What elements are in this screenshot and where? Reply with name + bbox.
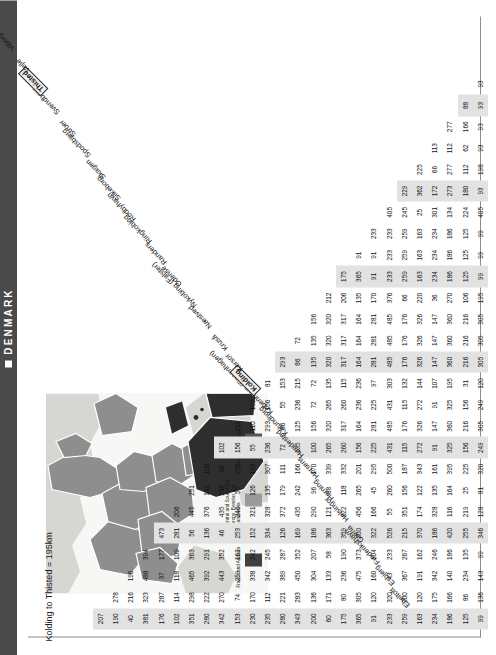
matrix-cell: 128 [473, 501, 488, 522]
matrix-row: 6017113358363121883392653202651353203203… [321, 73, 336, 629]
matrix-cell: 360 [442, 308, 457, 329]
matrix-cell: 186 [442, 608, 457, 629]
matrix-cell: 186 [442, 244, 457, 265]
matrix-cell: 66 [427, 158, 442, 179]
matrix-cell: 135 [351, 287, 366, 308]
matrix-cell: 152 [245, 522, 260, 543]
matrix-cell: 343 [290, 608, 305, 629]
matrix-cell: 109 [169, 543, 184, 564]
matrix-cell: 161 [427, 458, 442, 479]
matrix-cell: 106 [458, 287, 473, 308]
matrix-cell: 196 [123, 565, 138, 586]
matrix-cell: 177 [154, 543, 169, 564]
matrix-cell: 277 [442, 158, 457, 179]
matrix-cell: 395 [442, 458, 457, 479]
matrix-cell: 55 [382, 501, 397, 522]
matrix-cell: 245 [397, 201, 412, 222]
matrix-cell: 283 [290, 586, 305, 607]
matrix-cell: 171 [321, 586, 336, 607]
matrix-cell: 360 [442, 330, 457, 351]
matrix-cell: 221 [275, 586, 290, 607]
matrix-cell: 267 [397, 543, 412, 564]
matrix-row: 1758023619035922211833226031726011531731… [336, 73, 351, 629]
matrix-cell: 352 [290, 543, 305, 564]
matrix-cell: 365 [351, 608, 366, 629]
matrix-cell: 93 [473, 116, 488, 137]
matrix-cell: 236 [260, 436, 275, 457]
matrix-cell: 187 [397, 458, 412, 479]
matrix-cell: 326 [412, 308, 427, 329]
matrix-cell: 135 [321, 372, 336, 393]
matrix-row: 9913614399346128813202493052491203053053… [473, 73, 488, 629]
matrix-cell: 66 [214, 458, 229, 479]
matrix-row: 17628737177473 [154, 73, 169, 629]
matrix-cell: 215 [397, 522, 412, 543]
matrix-cell: 365 [351, 265, 366, 286]
matrix-cell: 206 [336, 287, 351, 308]
matrix-cell: 281 [366, 351, 381, 372]
matrix-cell: 270 [214, 586, 229, 607]
matrix-cell: 108 [199, 458, 214, 479]
matrix-cell: 195 [473, 287, 488, 308]
matrix-row: 1631201911623701741223432723262721443263… [412, 73, 427, 629]
matrix-cell: 136 [473, 586, 488, 607]
matrix-cell: 235 [260, 608, 275, 629]
matrix-cell: 346 [473, 522, 488, 543]
matrix-cell: 164 [351, 415, 366, 436]
matrix-cell: 367 [397, 565, 412, 586]
matrix-cell: 233 [382, 223, 397, 244]
matrix-cell: 381 [138, 608, 153, 629]
matrix-cell: 332 [336, 458, 351, 479]
matrix-cell: 265 [351, 479, 366, 500]
matrix-cell: 135 [458, 543, 473, 564]
matrix-cell: 112 [442, 137, 457, 158]
matrix-cell: 125 [458, 244, 473, 265]
matrix-cell: 233 [366, 223, 381, 244]
matrix-cell: 233 [382, 244, 397, 265]
matrix-cell: 394 [138, 543, 153, 564]
matrix-cell: 91 [427, 436, 442, 457]
matrix-cell: 212 [321, 287, 336, 308]
matrix-cell: 488 [138, 565, 153, 586]
matrix-cell: 175 [336, 608, 351, 629]
matrix-cell: 225 [412, 158, 427, 179]
matrix-row: 23017033824215232112612355110102 [245, 73, 260, 629]
matrix-cell: 317 [336, 415, 351, 436]
matrix-row: 280221389287126372179111728655153293 [275, 73, 290, 629]
matrix-cell: 370 [412, 522, 427, 543]
matrix-cell: 328 [427, 501, 442, 522]
matrix-cell: 99 [473, 543, 488, 564]
matrix-cell: 156 [230, 436, 245, 457]
matrix-row: 9112016010432216645295225281225972812812… [366, 73, 381, 629]
matrix-cell: 56 [184, 522, 199, 543]
matrix-cell: 253 [230, 522, 245, 543]
matrix-cell: 207 [306, 543, 321, 564]
matrix-cell: 125 [458, 265, 473, 286]
matrix-cell: 133 [321, 565, 336, 586]
matrix-cell: 342 [427, 565, 442, 586]
matrix-cell: 116 [442, 501, 457, 522]
matrix-cell: 215 [290, 372, 305, 393]
matrix-cell: 298 [184, 586, 199, 607]
matrix-cell: 81 [473, 479, 488, 500]
matrix-cell: 225 [366, 436, 381, 457]
atlas-page: DENMARK [0, 0, 496, 655]
matrix-cell: 176 [154, 608, 169, 629]
matrix-cell: 265 [321, 394, 336, 415]
matrix-cell: 156 [306, 308, 321, 329]
matrix-cell: 86 [458, 586, 473, 607]
matrix-cell: 114 [169, 586, 184, 607]
matrix-cell: 249 [473, 436, 488, 457]
matrix-cell: 81 [260, 372, 275, 393]
matrix-cell: 485 [382, 351, 397, 372]
matrix-cell: 304 [306, 565, 321, 586]
matrix-cell: 281 [169, 522, 184, 543]
matrix-cell: 100 [306, 436, 321, 457]
matrix-cell: 66 [397, 287, 412, 308]
matrix-annotation: Kolding to Thisted = 195km [44, 532, 54, 641]
matrix-cell: 132 [397, 372, 412, 393]
matrix-cell: 265 [321, 436, 336, 457]
matrix-cell: 326 [412, 330, 427, 351]
matrix-cell: 123 [245, 458, 260, 479]
matrix-cell: 225 [366, 394, 381, 415]
